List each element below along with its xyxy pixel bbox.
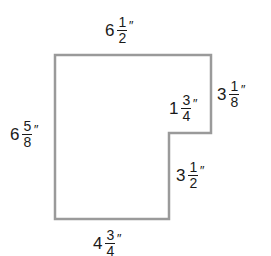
bottom-whole: 4 xyxy=(93,234,102,254)
right-lower-whole: 3 xyxy=(176,166,185,186)
step-unit: ″ xyxy=(192,96,197,111)
step-side-label: 1 3 4 ″ xyxy=(169,94,197,123)
right-lower-fraction: 1 2 xyxy=(188,161,198,190)
right-upper-fraction: 1 8 xyxy=(229,80,239,109)
top-fraction: 1 2 xyxy=(117,16,127,45)
left-unit: ″ xyxy=(33,122,38,137)
step-denominator: 4 xyxy=(182,109,190,123)
left-side-label: 6 5 8 ″ xyxy=(10,120,38,149)
right-lower-numerator: 1 xyxy=(188,161,198,176)
right-lower-unit: ″ xyxy=(199,163,204,178)
left-whole: 6 xyxy=(10,125,19,145)
step-whole: 1 xyxy=(169,99,178,119)
right-upper-whole: 3 xyxy=(217,85,226,105)
top-side-label: 6 1 2 ″ xyxy=(105,16,133,45)
step-numerator: 3 xyxy=(181,94,191,109)
l-shape-figure xyxy=(0,0,271,256)
top-whole: 6 xyxy=(105,21,114,41)
bottom-unit: ″ xyxy=(116,231,121,246)
right-upper-denominator: 8 xyxy=(230,95,238,109)
right-upper-unit: ″ xyxy=(240,82,245,97)
right-upper-numerator: 1 xyxy=(229,80,239,95)
right-lower-denominator: 2 xyxy=(189,176,197,190)
left-denominator: 8 xyxy=(23,135,31,149)
top-numerator: 1 xyxy=(117,16,127,31)
bottom-denominator: 4 xyxy=(106,244,114,256)
left-numerator: 5 xyxy=(22,120,32,135)
left-fraction: 5 8 xyxy=(22,120,32,149)
right-upper-side-label: 3 1 8 ″ xyxy=(217,80,245,109)
bottom-numerator: 3 xyxy=(105,229,115,244)
top-unit: ″ xyxy=(128,18,133,33)
l-shape-outline xyxy=(55,55,211,219)
bottom-side-label: 4 3 4 ″ xyxy=(93,229,121,256)
step-fraction: 3 4 xyxy=(181,94,191,123)
bottom-fraction: 3 4 xyxy=(105,229,115,256)
right-lower-side-label: 3 1 2 ″ xyxy=(176,161,204,190)
top-denominator: 2 xyxy=(118,31,126,45)
